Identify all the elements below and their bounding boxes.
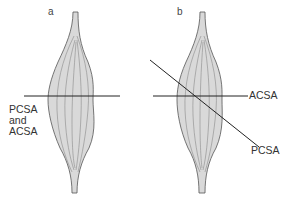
- panel-label-b: b: [177, 6, 183, 17]
- figure-canvas: [0, 0, 299, 206]
- label-acsa-a: ACSA: [9, 126, 38, 137]
- label-pcsa-b: PCSA: [251, 145, 280, 156]
- muscle-b: [177, 12, 222, 193]
- muscle-cross-section-figure: a b PCSA and ACSA ACSA PCSA: [0, 0, 299, 206]
- label-acsa-b: ACSA: [249, 90, 278, 101]
- muscle-a: [48, 12, 94, 193]
- panel-label-a: a: [48, 6, 54, 17]
